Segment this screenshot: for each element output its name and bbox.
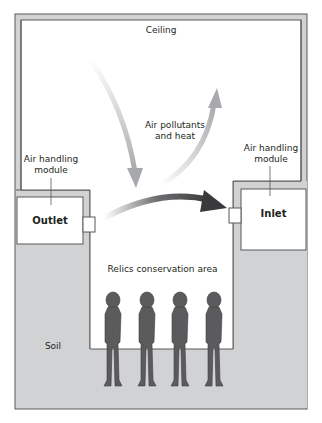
left-module-label: Air handling module <box>18 154 84 176</box>
ceiling-label: Ceiling <box>136 25 186 36</box>
inlet-vent <box>229 208 241 223</box>
right-module-line2: module <box>236 154 306 165</box>
left-module-line1: Air handling <box>18 154 84 165</box>
outlet-label: Outlet <box>17 215 83 226</box>
pollutants-line1: Air pollutants <box>135 120 215 131</box>
inlet-label: Inlet <box>241 208 306 219</box>
soil-label: Soil <box>38 341 68 352</box>
pollutants-line2: and heat <box>135 131 215 142</box>
right-module-line1: Air handling <box>236 143 306 154</box>
left-module-line2: module <box>18 165 84 176</box>
inlet-module <box>229 189 306 250</box>
outlet-vent <box>83 217 95 232</box>
right-module-label: Air handling module <box>236 143 306 165</box>
conservation-area-label: Relics conservation area <box>100 264 225 275</box>
pollutants-label: Air pollutants and heat <box>135 120 215 142</box>
